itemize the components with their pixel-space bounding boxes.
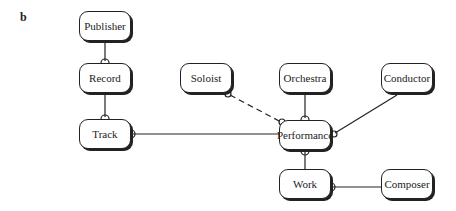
entity-composer: Composer xyxy=(381,169,433,199)
entity-soloist: Soloist xyxy=(180,63,232,93)
entity-record: Record xyxy=(79,63,131,93)
entity-work: Work xyxy=(279,169,331,199)
entity-track: Track xyxy=(79,119,131,149)
entity-conductor: Conductor xyxy=(381,63,433,93)
entity-orchestra: Orchestra xyxy=(279,63,331,93)
entity-performance: Performance xyxy=(279,120,331,150)
entity-publisher: Publisher xyxy=(79,11,131,41)
rel-conductor-performance xyxy=(335,95,397,133)
rel-soloist-performance xyxy=(230,95,281,122)
